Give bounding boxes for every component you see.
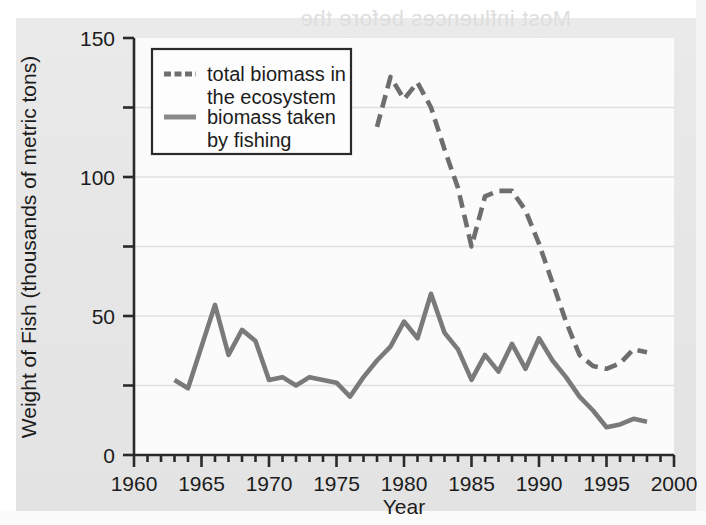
legend-label-total-biomass-line1: total biomass in (207, 63, 346, 85)
legend-label-total-biomass-line2: the ecosystem (207, 86, 336, 108)
y-tick-label: 0 (103, 444, 115, 467)
chart-legend: total biomass in the ecosystem biomass t… (152, 49, 351, 154)
x-tick-label: 1990 (516, 472, 563, 495)
x-tick-label: 1960 (111, 472, 158, 495)
x-tick-label: 1985 (448, 472, 495, 495)
x-axis-title: Year (383, 495, 425, 518)
y-tick-label: 50 (92, 305, 115, 328)
x-tick-label: 1995 (583, 472, 630, 495)
y-tick-label: 150 (80, 27, 115, 50)
x-tick-label: 1965 (178, 472, 225, 495)
y-axis-title: Weight of Fish (thousands of metric tons… (17, 56, 40, 438)
figure-page: Most influences before the in recent con… (0, 0, 706, 525)
x-tick-label: 1970 (246, 472, 293, 495)
x-tick-label: 1980 (381, 472, 428, 495)
x-tick-label: 2000 (651, 472, 698, 495)
x-tick-label: 1975 (313, 472, 360, 495)
legend-label-biomass-fishing-line2: by fishing (207, 129, 292, 151)
legend-label-biomass-fishing-line1: biomass taken (207, 106, 336, 128)
line-chart: 0501001501960196519701975198019851990199… (0, 0, 706, 525)
y-tick-label: 100 (80, 166, 115, 189)
